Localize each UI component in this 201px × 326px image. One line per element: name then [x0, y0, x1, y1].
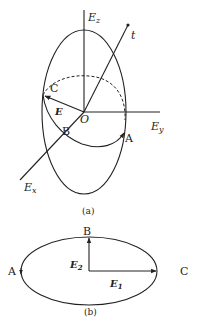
ex-label: Ex [23, 181, 37, 195]
origin-label: O [80, 113, 89, 126]
caption-a: (a) [82, 206, 94, 216]
t-label: t [131, 29, 136, 42]
figure-b: B A C E2 E1 (b) [7, 225, 188, 317]
point-c-label: C [50, 82, 58, 95]
point-a-label: A [124, 132, 134, 145]
e-vector [45, 96, 84, 112]
t-axis-endpoint [126, 23, 129, 26]
caption-b: (b) [84, 307, 97, 317]
polarization-diagram: Ez t Ey Ex O E C B A (a) B A C E2 E1 (b) [0, 0, 201, 326]
e1-label: E1 [109, 278, 123, 291]
t-axis [84, 25, 128, 112]
e-vector-label: E [54, 106, 63, 117]
point-c-label-b: C [180, 265, 188, 278]
figure-a: Ez t Ey Ex O E C B A (a) [20, 10, 164, 216]
ex-axis [20, 112, 84, 180]
point-b-label-b: B [83, 225, 91, 238]
point-b-label: B [62, 125, 70, 138]
ey-label: Ey [150, 120, 164, 134]
ez-label: Ez [87, 11, 101, 25]
e2-label: E2 [69, 259, 83, 272]
point-a-label-b: A [7, 265, 17, 278]
